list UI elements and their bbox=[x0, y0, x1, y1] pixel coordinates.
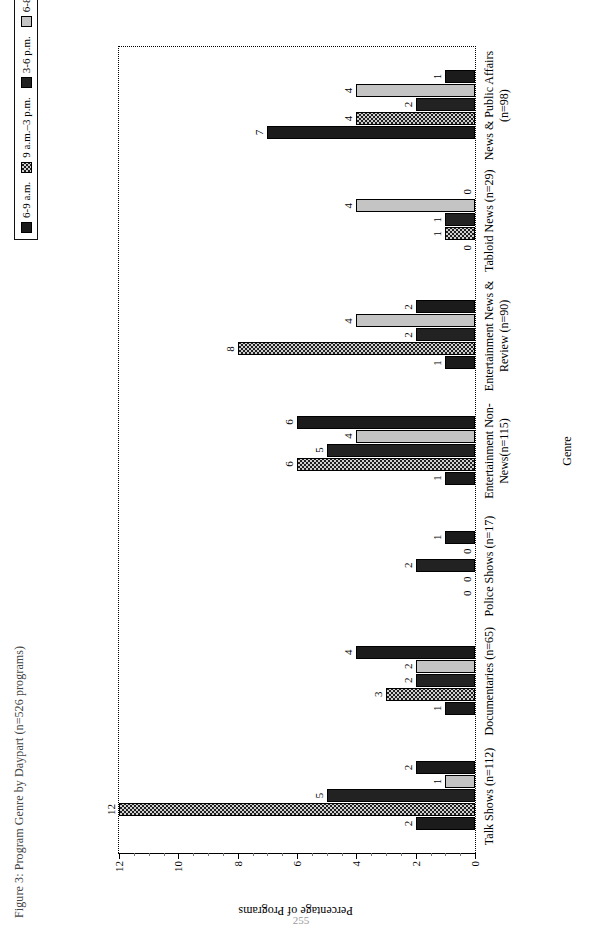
value-axis-tick-label: 12 bbox=[113, 861, 125, 879]
value-axis-tick bbox=[119, 853, 120, 859]
bar-slot: 4 bbox=[119, 84, 475, 97]
category-label: Entertainment News & Review (n=90) bbox=[482, 278, 512, 393]
bar-slot: 1 bbox=[119, 702, 475, 715]
bar bbox=[416, 761, 475, 774]
bar-value-label: 6 bbox=[284, 458, 295, 471]
bar bbox=[416, 98, 475, 111]
value-axis-minor-tick bbox=[267, 853, 268, 856]
bar-value-label: 2 bbox=[403, 300, 414, 313]
bar-slot: 1 bbox=[119, 213, 475, 226]
value-axis-minor-tick bbox=[327, 853, 328, 856]
legend-item: 9 a.m.–3 p.m. bbox=[20, 97, 32, 173]
value-axis-minor-tick bbox=[460, 853, 461, 856]
bar-value-label: 4 bbox=[343, 199, 354, 212]
category-label: Documentaries (n=65) bbox=[482, 624, 497, 739]
legend-swatch-icon bbox=[21, 77, 32, 88]
value-axis-minor-tick bbox=[282, 853, 283, 856]
value-axis-minor-tick bbox=[312, 853, 313, 856]
category-label: Talk Shows (n=112) bbox=[482, 739, 497, 854]
bar-slot: 2 bbox=[119, 300, 475, 313]
bar-slot: 8 bbox=[119, 342, 475, 355]
legend-swatch-icon bbox=[21, 222, 32, 233]
bar-slot: 5 bbox=[119, 444, 475, 457]
bar bbox=[386, 688, 475, 701]
bar-slot: 2 bbox=[119, 98, 475, 111]
bar-slot: 4 bbox=[119, 430, 475, 443]
bar-slot: 0 bbox=[119, 185, 475, 198]
value-axis-minor-tick bbox=[164, 853, 165, 856]
bar bbox=[356, 84, 475, 97]
bar-value-label: 2 bbox=[403, 660, 414, 673]
bar bbox=[356, 112, 475, 125]
bar bbox=[356, 199, 475, 212]
bar bbox=[267, 126, 475, 139]
legend-item-label: 6-9 a.m. bbox=[20, 182, 32, 218]
value-axis-tick-label: 0 bbox=[469, 861, 481, 879]
bar-value-label: 1 bbox=[432, 702, 443, 715]
bar-value-label: 1 bbox=[432, 356, 443, 369]
page-number: 255 bbox=[0, 914, 602, 926]
bar bbox=[356, 646, 475, 659]
bar bbox=[445, 356, 475, 369]
value-axis-tick bbox=[178, 853, 179, 859]
bar-slot: 2 bbox=[119, 328, 475, 341]
bar bbox=[416, 300, 475, 313]
legend-item: 6-9 a.m. bbox=[20, 182, 32, 233]
bar-slot: 2 bbox=[119, 559, 475, 572]
value-axis-minor-tick bbox=[134, 853, 135, 856]
bar-slot: 1 bbox=[119, 775, 475, 788]
bar-group: 01140 bbox=[119, 185, 475, 254]
value-axis-minor-tick bbox=[193, 853, 194, 856]
bar-value-label: 2 bbox=[403, 98, 414, 111]
bar bbox=[416, 660, 475, 673]
bar-value-label: 1 bbox=[432, 227, 443, 240]
bar-group: 00201 bbox=[119, 531, 475, 600]
legend-item: 6-8 p.m. bbox=[20, 0, 32, 27]
value-axis-tick bbox=[356, 853, 357, 859]
bar bbox=[356, 314, 475, 327]
bar-value-label: 2 bbox=[403, 761, 414, 774]
value-axis-minor-tick bbox=[431, 853, 432, 856]
value-axis-minor-tick bbox=[445, 853, 446, 856]
value-axis-minor-tick bbox=[208, 853, 209, 856]
bar-value-label: 7 bbox=[254, 126, 265, 139]
bar-value-label: 5 bbox=[314, 444, 325, 457]
bar-slot: 1 bbox=[119, 356, 475, 369]
bar-value-label: 0 bbox=[462, 241, 473, 254]
bar bbox=[445, 227, 475, 240]
bar bbox=[238, 342, 475, 355]
value-axis-tick bbox=[416, 853, 417, 859]
rotated-figure-canvas: Figure 3: Program Genre by Daypart (n=52… bbox=[0, 0, 602, 932]
bar-slot: 6 bbox=[119, 458, 475, 471]
bar-value-label: 1 bbox=[432, 775, 443, 788]
value-axis-minor-tick bbox=[401, 853, 402, 856]
legend-item-label: 9 a.m.–3 p.m. bbox=[20, 97, 32, 158]
bar-slot: 4 bbox=[119, 646, 475, 659]
bar-slot: 1 bbox=[119, 531, 475, 544]
value-axis-tick-label: 2 bbox=[410, 861, 422, 879]
bar bbox=[445, 472, 475, 485]
category-label: Entertainment Non-News(n=115) bbox=[482, 393, 512, 508]
category-label: Tabloid News (n=29) bbox=[482, 163, 497, 278]
bar-slot: 2 bbox=[119, 761, 475, 774]
bar-value-label: 3 bbox=[373, 688, 384, 701]
bar-value-label: 0 bbox=[462, 185, 473, 198]
category-label: News & Public Affairs (n=98) bbox=[482, 48, 512, 163]
bar bbox=[119, 803, 475, 816]
bar-slot: 0 bbox=[119, 545, 475, 558]
value-axis-tick bbox=[297, 853, 298, 859]
bar bbox=[445, 213, 475, 226]
value-axis-tick-label: 4 bbox=[350, 861, 362, 879]
legend-swatch-icon bbox=[21, 162, 32, 173]
bar-slot: 1 bbox=[119, 70, 475, 83]
bar-slot: 4 bbox=[119, 199, 475, 212]
bar-slot: 4 bbox=[119, 314, 475, 327]
bar-slot: 7 bbox=[119, 126, 475, 139]
bar-slot: 2 bbox=[119, 674, 475, 687]
bar-group: 18242 bbox=[119, 300, 475, 369]
bar-slot: 2 bbox=[119, 817, 475, 830]
bar-value-label: 12 bbox=[106, 803, 117, 816]
bar-slot: 6 bbox=[119, 416, 475, 429]
category-axis-title: Genre bbox=[560, 48, 575, 854]
bar-slot: 12 bbox=[119, 803, 475, 816]
